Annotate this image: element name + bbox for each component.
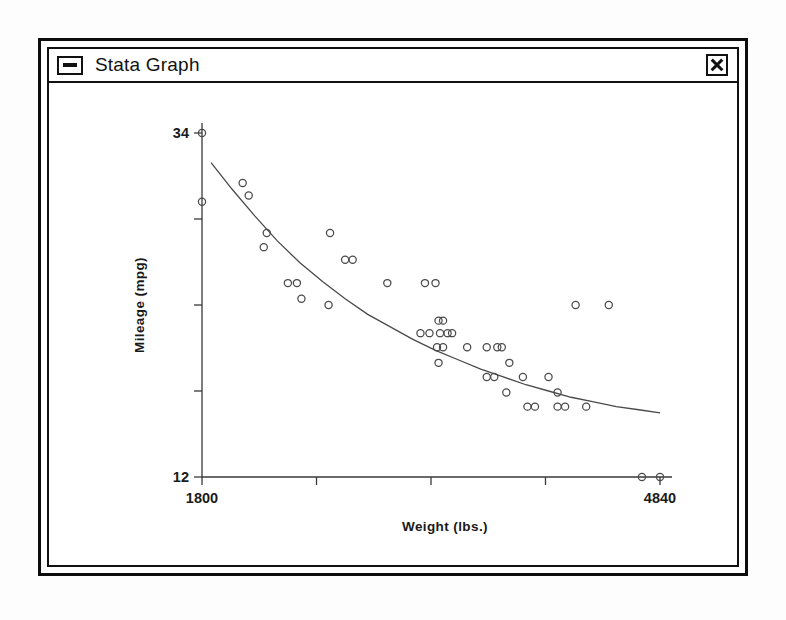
data-point xyxy=(554,403,561,410)
data-point xyxy=(519,373,526,380)
data-point xyxy=(432,280,439,287)
data-point xyxy=(293,280,300,287)
minimize-bar xyxy=(63,63,77,67)
y-axis-title: Mileage (mpg) xyxy=(132,257,147,353)
data-point xyxy=(426,330,433,337)
scatter-plot: 341218004840Weight (lbs.)Mileage (mpg) xyxy=(49,83,737,553)
y-tick-label: 12 xyxy=(173,469,189,485)
data-point xyxy=(349,256,356,263)
data-point xyxy=(298,295,305,302)
data-point xyxy=(326,229,333,236)
data-point xyxy=(239,179,246,186)
data-point xyxy=(605,301,612,308)
data-point xyxy=(561,403,568,410)
window-inner-frame: Stata Graph 341218004840Weight (lbs.)Mil… xyxy=(47,47,739,567)
data-point xyxy=(483,373,490,380)
y-tick-label: 34 xyxy=(173,125,189,141)
x-tick-label: 4840 xyxy=(644,490,676,506)
data-point xyxy=(448,330,455,337)
data-point xyxy=(245,192,252,199)
data-point xyxy=(384,280,391,287)
data-point xyxy=(436,330,443,337)
data-point xyxy=(545,373,552,380)
data-point xyxy=(498,344,505,351)
stata-graph-window: Stata Graph 341218004840Weight (lbs.)Mil… xyxy=(38,38,748,576)
data-point xyxy=(260,244,267,251)
plot-axes xyxy=(202,123,672,477)
graph-client-area: 341218004840Weight (lbs.)Mileage (mpg) xyxy=(49,83,737,565)
data-point xyxy=(439,317,446,324)
data-point xyxy=(531,403,538,410)
scanned-page-background: Stata Graph 341218004840Weight (lbs.)Mil… xyxy=(0,0,786,620)
window-titlebar: Stata Graph xyxy=(49,49,737,83)
data-point xyxy=(284,280,291,287)
data-point xyxy=(435,359,442,366)
data-point xyxy=(583,403,590,410)
window-title: Stata Graph xyxy=(95,54,200,76)
data-point xyxy=(524,403,531,410)
data-point xyxy=(464,344,471,351)
data-point xyxy=(263,229,270,236)
data-point xyxy=(417,330,424,337)
x-axis-title: Weight (lbs.) xyxy=(402,519,488,534)
data-point xyxy=(421,280,428,287)
data-point xyxy=(325,301,332,308)
data-point xyxy=(506,359,513,366)
data-point xyxy=(483,344,490,351)
fitted-curve xyxy=(211,163,660,413)
data-point xyxy=(572,301,579,308)
x-tick-label: 1800 xyxy=(186,490,218,506)
close-x-icon[interactable] xyxy=(706,54,728,76)
data-point xyxy=(342,256,349,263)
minimize-box-icon[interactable] xyxy=(57,56,83,75)
data-point xyxy=(503,389,510,396)
